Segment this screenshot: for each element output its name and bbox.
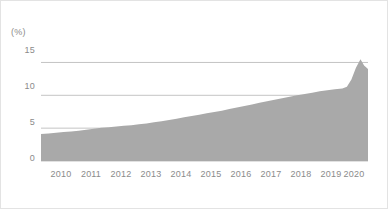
x-tick-label-2015: 2015 — [196, 169, 226, 179]
x-tick-label-2016: 2016 — [226, 169, 256, 179]
x-tick-label-2014: 2014 — [166, 169, 196, 179]
x-tick-label-2017: 2017 — [256, 169, 286, 179]
y-tick-label-0: 0 — [11, 153, 35, 163]
y-axis-unit-label: (%) — [11, 27, 26, 37]
x-tick-label-2011: 2011 — [76, 169, 106, 179]
x-tick-label-2012: 2012 — [106, 169, 136, 179]
y-tick-label-5: 5 — [11, 117, 35, 127]
x-tick-label-2018: 2018 — [286, 169, 316, 179]
area-series-share — [41, 59, 368, 161]
y-tick-label-10: 10 — [11, 81, 35, 91]
y-tick-label-15: 15 — [11, 45, 35, 55]
x-tick-label-2010: 2010 — [46, 169, 76, 179]
chart-container: (%) 15 10 5 0 2010 2011 2012 2013 2014 2… — [0, 0, 388, 209]
x-tick-label-2013: 2013 — [136, 169, 166, 179]
x-tick-label-2020: 2020 — [339, 169, 369, 179]
